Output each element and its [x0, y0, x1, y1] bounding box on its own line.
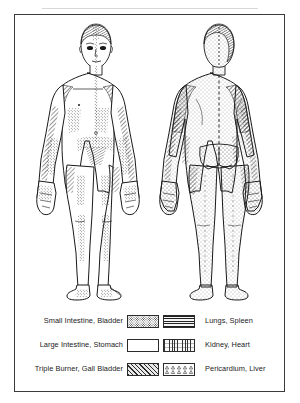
swatch-stipple — [127, 315, 159, 328]
diagram-frame: Small Intestine, Bladder Large Intestine… — [14, 14, 285, 392]
legend-item-kidney-heart: Kidney, Heart — [163, 333, 283, 357]
posterior-body-figure — [160, 24, 263, 300]
legend-panel: Small Intestine, Bladder Large Intestine… — [15, 303, 284, 391]
legend-label-kidney-heart: Kidney, Heart — [205, 341, 250, 348]
swatch-vertical — [163, 339, 195, 352]
legend-item-small-intestine-bladder: Small Intestine, Bladder — [19, 309, 159, 333]
swatch-triangles — [163, 363, 195, 376]
legend-column-left: Small Intestine, Bladder Large Intestine… — [19, 309, 159, 381]
legend-item-pericardium-liver: Pericardium, Liver — [163, 357, 283, 381]
swatch-blank — [127, 339, 159, 352]
anterior-body-figure — [37, 24, 140, 300]
legend-item-lungs-spleen: Lungs, Spleen — [163, 309, 283, 333]
legend-label-triple-burner-gall-bladder: Triple Burner, Gall Bladder — [35, 365, 123, 372]
top-divider-rule — [42, 8, 258, 9]
legend-label-large-intestine-stomach: Large Intestine, Stomach — [40, 341, 123, 348]
body-figures-panel — [15, 15, 284, 303]
swatch-horizontal — [163, 315, 195, 328]
legend-item-triple-burner-gall-bladder: Triple Burner, Gall Bladder — [19, 357, 159, 381]
legend-label-lungs-spleen: Lungs, Spleen — [205, 317, 253, 324]
legend-column-right: Lungs, Spleen Kidney, Heart — [163, 309, 283, 381]
triangle-pattern-icon — [164, 364, 194, 375]
swatch-diagonal — [127, 363, 159, 376]
body-figures-svg — [15, 15, 283, 303]
legend-label-pericardium-liver: Pericardium, Liver — [205, 365, 265, 372]
legend-item-large-intestine-stomach: Large Intestine, Stomach — [19, 333, 159, 357]
legend-label-small-intestine-bladder: Small Intestine, Bladder — [44, 317, 123, 324]
